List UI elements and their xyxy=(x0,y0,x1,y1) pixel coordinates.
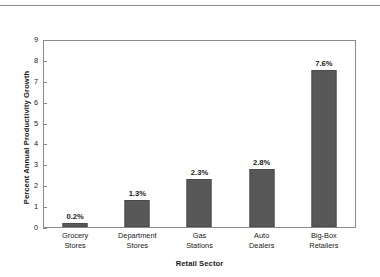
bar-group: 2.8% xyxy=(231,41,293,227)
bar xyxy=(311,70,336,227)
x-axis-tick-label-line: Stores xyxy=(106,241,168,251)
x-axis-tick-label: GasStations xyxy=(168,231,230,250)
x-axis-tick-label: Big-BoxRetailers xyxy=(293,231,355,250)
bars-layer: 0.2%1.3%2.3%2.8%7.6% xyxy=(44,41,355,227)
y-axis-tick-label: 0 xyxy=(22,223,38,232)
y-axis-tick-mark xyxy=(43,228,47,229)
x-axis-tick-label-line: Department xyxy=(106,231,168,241)
y-axis-tick-label: 4 xyxy=(22,139,38,148)
x-axis-tick-label-line: Stores xyxy=(44,241,106,251)
bar xyxy=(249,169,274,227)
y-axis-tick-label: 6 xyxy=(22,98,38,107)
x-axis-tick-label-line: Stations xyxy=(168,241,230,251)
y-axis-tick-label: 8 xyxy=(22,56,38,65)
x-axis-tick-label: AutoDealers xyxy=(231,231,293,250)
bar-value-label: 2.3% xyxy=(173,168,225,177)
x-axis-tick-label: GroceryStores xyxy=(44,231,106,250)
bar-chart-figure: Percent Annual Productivity Growth 01234… xyxy=(0,0,380,277)
x-axis-tick-label-line: Grocery xyxy=(44,231,106,241)
y-axis-tick-label: 5 xyxy=(22,119,38,128)
bar xyxy=(63,223,88,227)
y-axis-tick-label: 2 xyxy=(22,181,38,190)
bar-group: 0.2% xyxy=(44,41,106,227)
y-axis-tick-label: 3 xyxy=(22,160,38,169)
y-axis-tick-label: 9 xyxy=(22,35,38,44)
x-axis-title: Retail Sector xyxy=(43,259,356,268)
bar-group: 2.3% xyxy=(168,41,230,227)
x-axis-tick-label-line: Dealers xyxy=(231,241,293,251)
bar xyxy=(125,200,150,227)
bar xyxy=(187,179,212,227)
y-axis-tick-label: 1 xyxy=(22,202,38,211)
x-axis-tick-label-line: Auto xyxy=(231,231,293,241)
bar-value-label: 0.2% xyxy=(49,212,101,221)
x-axis-tick-label: DepartmentStores xyxy=(106,231,168,250)
top-divider-rule xyxy=(0,5,380,6)
x-axis-tick-label-line: Retailers xyxy=(293,241,355,251)
bar-value-label: 1.3% xyxy=(111,189,163,198)
y-axis-tick-label: 7 xyxy=(22,77,38,86)
bar-group: 1.3% xyxy=(106,41,168,227)
x-axis-tick-label-line: Gas xyxy=(168,231,230,241)
bar-value-label: 7.6% xyxy=(298,59,350,68)
x-axis-tick-labels: GroceryStoresDepartmentStoresGasStations… xyxy=(44,231,355,257)
bar-value-label: 2.8% xyxy=(236,158,288,167)
bar-group: 7.6% xyxy=(293,41,355,227)
x-axis-tick-label-line: Big-Box xyxy=(293,231,355,241)
